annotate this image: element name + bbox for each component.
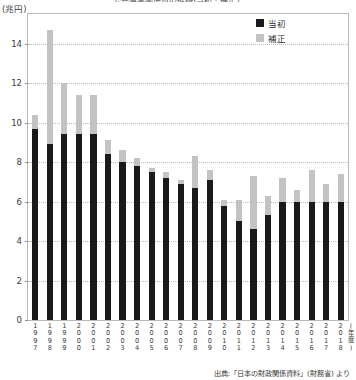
- bar-initial[interactable]: [221, 206, 227, 321]
- chart-legend: 当初 補正: [256, 17, 286, 47]
- x-axis-tick-label: 2012: [247, 323, 259, 353]
- plot-area: [28, 14, 348, 320]
- x-axis-tick-label: 2010: [218, 323, 230, 353]
- y-axis-tick-label: 12: [2, 78, 22, 88]
- bar-group[interactable]: [90, 14, 96, 320]
- bar-group[interactable]: [279, 14, 285, 320]
- x-axis-tick-label: 2014: [277, 323, 289, 353]
- x-axis-tick-label: 2007: [175, 323, 187, 353]
- bar-group[interactable]: [61, 14, 67, 320]
- bar-initial[interactable]: [279, 202, 285, 320]
- bar-group[interactable]: [119, 14, 125, 320]
- x-axis-tick-label: 2013: [262, 323, 274, 353]
- legend-item-initial[interactable]: 当初: [256, 17, 286, 29]
- bar-initial[interactable]: [90, 134, 96, 320]
- y-axis-unit-label: (兆円): [2, 2, 27, 14]
- y-axis-tick-label: 8: [2, 157, 22, 167]
- bar-initial[interactable]: [338, 202, 344, 320]
- legend-item-supplementary[interactable]: 補正: [256, 32, 286, 44]
- y-axis-tick-label: 4: [2, 236, 22, 246]
- x-axis-tick-label: 2004: [131, 323, 143, 353]
- bar-group[interactable]: [323, 14, 329, 320]
- bar-group[interactable]: [163, 14, 169, 320]
- bar-initial[interactable]: [178, 184, 184, 320]
- dark-square-icon: [256, 19, 264, 27]
- bar-group[interactable]: [192, 14, 198, 320]
- x-axis-tick-label: 1997: [29, 323, 41, 353]
- bar-initial[interactable]: [163, 178, 169, 320]
- x-axis-unit-label: (年度): [346, 323, 356, 352]
- bars-layer: [28, 14, 348, 320]
- x-axis-tick-label: 2006: [160, 323, 172, 353]
- bar-initial[interactable]: [149, 172, 155, 320]
- y-axis-tick-mark: [25, 83, 28, 84]
- bar-initial[interactable]: [250, 229, 256, 320]
- y-axis-tick-label: 6: [2, 197, 22, 207]
- bar-initial[interactable]: [134, 166, 140, 320]
- bar-initial[interactable]: [192, 188, 198, 320]
- x-axis-tick-label: 2011: [233, 323, 245, 353]
- x-axis-tick-label: 2008: [189, 323, 201, 353]
- bar-initial[interactable]: [76, 134, 82, 320]
- bar-group[interactable]: [294, 14, 300, 320]
- legend-label-initial: 当初: [268, 17, 286, 29]
- y-axis-tick-mark: [25, 162, 28, 163]
- bar-initial[interactable]: [32, 129, 38, 320]
- bar-initial[interactable]: [207, 180, 213, 320]
- bar-group[interactable]: [105, 14, 111, 320]
- y-axis-tick-label: 2: [2, 276, 22, 286]
- chart-title: 公共事業関係費の推移(当初・補正): [0, 0, 353, 2]
- x-axis-ticks: 1997199819992000200120022003200420052006…: [28, 323, 348, 363]
- y-axis-tick-label: 14: [2, 39, 22, 49]
- y-axis-tick-label: 10: [2, 118, 22, 128]
- bar-group[interactable]: [250, 14, 256, 320]
- x-axis-tick-label: 2017: [320, 323, 332, 353]
- y-axis-tick-mark: [25, 44, 28, 45]
- bar-initial[interactable]: [294, 202, 300, 320]
- bar-initial[interactable]: [105, 154, 111, 320]
- bar-group[interactable]: [207, 14, 213, 320]
- bar-initial[interactable]: [323, 202, 329, 320]
- x-axis-tick-label: 2003: [117, 323, 129, 353]
- bar-initial[interactable]: [119, 162, 125, 320]
- bar-group[interactable]: [178, 14, 184, 320]
- bar-group[interactable]: [149, 14, 155, 320]
- x-axis-tick-label: 2009: [204, 323, 216, 353]
- bar-group[interactable]: [265, 14, 271, 320]
- bar-initial[interactable]: [309, 202, 315, 320]
- y-axis-tick-mark: [25, 123, 28, 124]
- x-axis-tick-label: 2016: [306, 323, 318, 353]
- light-square-icon: [256, 34, 264, 42]
- x-axis-tick-label: 2018: [335, 323, 347, 353]
- bar-group[interactable]: [32, 14, 38, 320]
- x-axis-tick-label: 1998: [44, 323, 56, 353]
- bar-group[interactable]: [236, 14, 242, 320]
- y-axis-tick-mark: [25, 202, 28, 203]
- bar-group[interactable]: [309, 14, 315, 320]
- x-axis-tick-label: 2002: [102, 323, 114, 353]
- x-axis-tick-label: 2000: [73, 323, 85, 353]
- bar-group[interactable]: [134, 14, 140, 320]
- bar-group[interactable]: [47, 14, 53, 320]
- bar-group[interactable]: [76, 14, 82, 320]
- source-note: 出典:「日本の財政関係資料」(財務省) より: [214, 368, 350, 378]
- legend-label-supplementary: 補正: [268, 32, 286, 44]
- y-axis-tick-mark: [25, 320, 28, 321]
- bar-group[interactable]: [221, 14, 227, 320]
- y-axis-tick-label: 0: [2, 315, 22, 325]
- bar-initial[interactable]: [61, 134, 67, 320]
- x-axis-tick-label: 2015: [291, 323, 303, 353]
- x-axis-tick-label: 2001: [87, 323, 99, 353]
- x-axis-tick-label: 2005: [146, 323, 158, 353]
- bar-initial[interactable]: [236, 221, 242, 320]
- y-axis-tick-mark: [25, 281, 28, 282]
- bar-initial[interactable]: [47, 144, 53, 320]
- bar-initial[interactable]: [265, 215, 271, 320]
- x-axis-tick-label: 1999: [58, 323, 70, 353]
- y-axis-tick-mark: [25, 241, 28, 242]
- bar-group[interactable]: [338, 14, 344, 320]
